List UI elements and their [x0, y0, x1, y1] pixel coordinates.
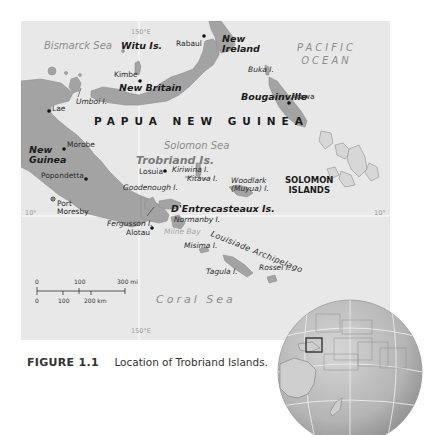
label-new-ireland-line2: Ireland — [222, 44, 260, 54]
label-arawa: Arawa — [291, 93, 315, 101]
label-meridian-bottom: 150°E — [131, 328, 151, 335]
label-ocean: OCEAN — [297, 54, 356, 67]
label-pacific-ocean: PACIFIC OCEAN — [297, 41, 356, 67]
scale-mi-300: 300 mi — [117, 279, 138, 285]
dot-rabaul — [202, 34, 206, 38]
label-lae: Lae — [52, 105, 65, 113]
label-new-guinea-line2: Guinea — [29, 155, 66, 165]
label-alotau: Alotau — [126, 229, 150, 237]
label-new-guinea: New Guinea — [29, 145, 66, 165]
label-fergusson-i: Fergusson I. — [107, 220, 153, 228]
scale-mi-100: 100 — [74, 279, 85, 285]
label-kiriwina-i: Kiriwina I. — [172, 166, 209, 174]
label-port-moresby: Port Moresby — [57, 200, 89, 216]
scale-km-0: 0 — [35, 298, 39, 304]
label-new-ireland: New Ireland — [222, 34, 260, 54]
label-bismarck-sea: Bismarck Sea — [44, 41, 112, 51]
label-coral-sea: Coral Sea — [156, 294, 236, 305]
label-misima-i: Misima I. — [184, 242, 217, 250]
label-kitava-i: Kitava I. — [187, 175, 218, 183]
map-frame: Bismarck Sea Solomon Sea Coral Sea Milne… — [21, 21, 390, 340]
label-tagula-i: Tagula I. — [206, 268, 238, 276]
label-woodlark-i: Woodlark (Muyua) I. — [231, 177, 269, 194]
label-umboi-i: Umboi I. — [76, 98, 107, 106]
label-losuia: Losuia — [139, 168, 163, 176]
label-new-britain: New Britain — [119, 83, 182, 93]
figure-text: Location of Trobriand Islands. — [114, 356, 268, 368]
label-normanby-i: Normanby I. — [174, 216, 220, 224]
label-moresby: Moresby — [57, 208, 89, 216]
land-umboi — [69, 77, 81, 93]
scale-km-100: 100 — [58, 298, 69, 304]
label-rabaul: Rabaul — [176, 40, 202, 48]
label-solomon-islands: SOLOMON ISLANDS — [285, 175, 334, 195]
label-meridian-top: 150°E — [131, 29, 151, 36]
dot-lae — [47, 109, 51, 113]
label-buka-i: Buka I. — [248, 66, 274, 74]
label-witu-is: Witu Is. — [121, 41, 162, 51]
label-papua-new-guinea: PAPUA NEW GUINEA — [94, 116, 309, 127]
inset-globe — [268, 298, 427, 435]
scale-km-200: 200 km — [84, 298, 107, 304]
label-milne-bay: Milne Bay — [164, 228, 201, 236]
label-dentrecasteaux-is: D'Entrecasteaux Is. — [171, 204, 275, 214]
scale-bar — [37, 287, 125, 295]
label-islands: ISLANDS — [285, 185, 334, 195]
dot-popondetta — [84, 177, 88, 181]
figure-caption: FIGURE 1.1 Location of Trobriand Islands… — [27, 356, 268, 369]
label-solomon-sea: Solomon Sea — [164, 141, 229, 151]
figure-label: FIGURE 1.1 — [27, 356, 99, 369]
label-popondetta: Popondetta — [41, 172, 84, 180]
label-solomon: SOLOMON — [285, 175, 334, 185]
label-kimbe: Kimbe — [114, 71, 138, 79]
dot-losuia — [163, 169, 167, 173]
land-rossel — [267, 275, 277, 283]
label-goodenough-i: Goodenough I. — [123, 184, 178, 192]
label-woodlark-line2: (Muyua) I. — [231, 185, 269, 193]
label-morobe: Morobe — [67, 141, 95, 149]
label-parallel-left: 10° — [25, 210, 37, 217]
label-parallel-right: 10° — [374, 210, 386, 217]
scale-mi-0: 0 — [35, 279, 39, 285]
label-pacific: PACIFIC — [297, 41, 356, 54]
